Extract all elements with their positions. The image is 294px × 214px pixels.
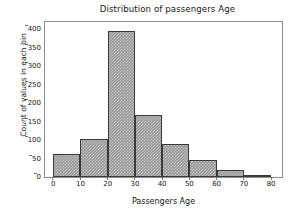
y-axis-label: Count of values in each bin bbox=[20, 15, 28, 155]
x-tick-mark bbox=[80, 177, 81, 180]
y-tick-label: 350 bbox=[28, 44, 45, 51]
histogram-bar bbox=[217, 170, 244, 177]
chart-title: Distribution of passengers Age bbox=[52, 4, 283, 15]
x-tick-label: 80 bbox=[267, 177, 276, 188]
x-tick-mark bbox=[53, 177, 54, 180]
histogram-bar bbox=[189, 160, 216, 177]
chart-figure: Distribution of passengers Age 050100150… bbox=[0, 0, 294, 214]
y-tick-label: 100 bbox=[28, 137, 45, 144]
y-tick-label: 200 bbox=[28, 100, 45, 107]
plot-area: 050100150200250300350400 010203040506070… bbox=[44, 21, 283, 178]
y-tick-mark bbox=[29, 155, 32, 156]
x-tick-mark bbox=[107, 177, 108, 180]
y-tick-mark bbox=[34, 173, 37, 174]
histogram-bar bbox=[162, 144, 189, 177]
y-tick-label: 150 bbox=[28, 118, 45, 125]
x-tick-mark bbox=[271, 177, 272, 180]
histogram-bar bbox=[135, 115, 162, 177]
y-tick-label: 50 bbox=[32, 155, 45, 162]
y-tick-label: 250 bbox=[28, 81, 45, 88]
x-tick-label: 20 bbox=[103, 177, 112, 188]
x-tick-label: 0 bbox=[51, 177, 55, 188]
x-tick-mark bbox=[162, 177, 163, 180]
histogram-bar bbox=[53, 154, 80, 177]
x-tick-mark bbox=[189, 177, 190, 180]
histogram-bar bbox=[80, 139, 107, 177]
bars-layer bbox=[45, 22, 282, 177]
x-tick-mark bbox=[216, 177, 217, 180]
x-tick-label: 60 bbox=[212, 177, 221, 188]
x-tick-label: 30 bbox=[130, 177, 139, 188]
x-axis-label: Passengers Age bbox=[44, 197, 283, 206]
x-tick-label: 40 bbox=[158, 177, 167, 188]
x-tick-mark bbox=[134, 177, 135, 180]
x-tick-label: 50 bbox=[185, 177, 194, 188]
y-tick-label: 0 bbox=[37, 174, 45, 181]
histogram-bar bbox=[108, 31, 135, 178]
x-tick-label: 70 bbox=[239, 177, 248, 188]
x-tick-mark bbox=[243, 177, 244, 180]
y-tick-label: 400 bbox=[28, 26, 45, 33]
x-tick-label: 10 bbox=[76, 177, 85, 188]
y-tick-label: 300 bbox=[28, 63, 45, 70]
